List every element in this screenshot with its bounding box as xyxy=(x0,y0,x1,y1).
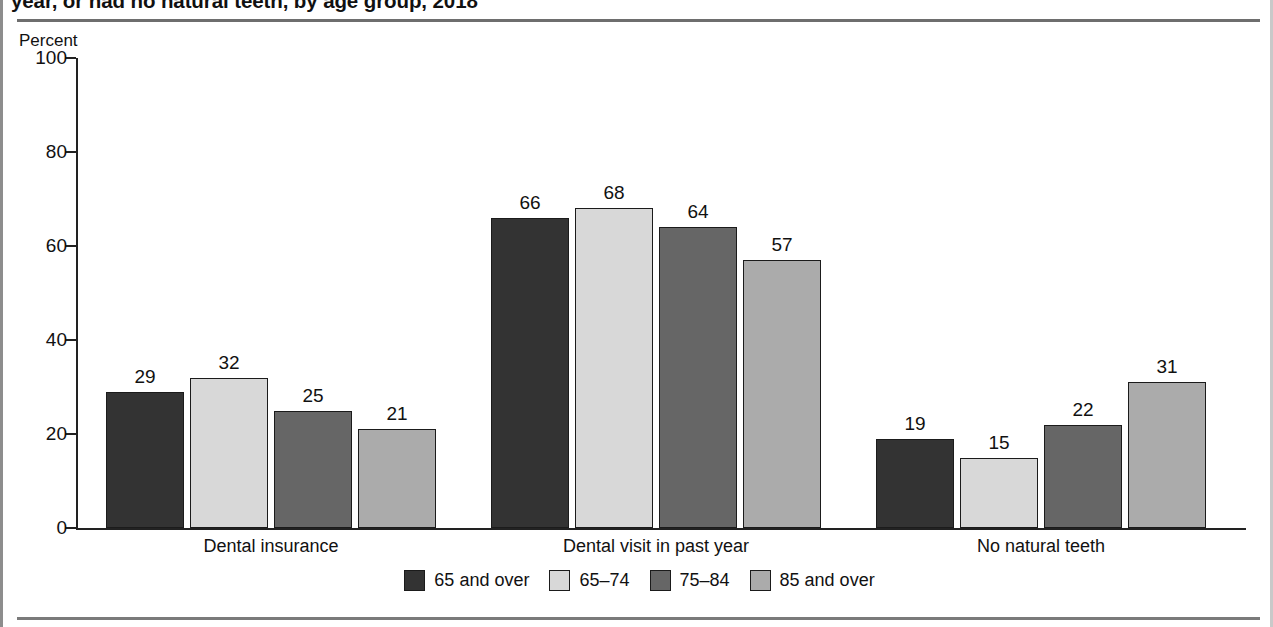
bar: 31 xyxy=(1128,382,1206,528)
y-tick-label: 60 xyxy=(46,235,67,257)
legend-swatch xyxy=(549,570,570,591)
legend-item: 85 and over xyxy=(750,570,875,591)
legend-label: 65 and over xyxy=(434,570,529,591)
x-axis-group-label: No natural teeth xyxy=(977,536,1105,557)
bar: 25 xyxy=(274,411,352,529)
legend-label: 65–74 xyxy=(579,570,629,591)
legend-label: 85 and over xyxy=(780,570,875,591)
bar: 68 xyxy=(575,208,653,528)
chart-legend: 65 and over65–7475–8485 and over xyxy=(3,570,1273,591)
bar: 32 xyxy=(190,378,268,528)
y-tick-label: 20 xyxy=(46,423,67,445)
y-tick-label: 80 xyxy=(46,141,67,163)
bar-value-label: 21 xyxy=(386,403,407,425)
bar: 21 xyxy=(358,429,436,528)
bar-value-label: 57 xyxy=(771,234,792,256)
legend-item: 65 and over xyxy=(404,570,529,591)
bar: 57 xyxy=(743,260,821,528)
bar: 15 xyxy=(960,458,1038,529)
plot-area: 020406080100 293225216668645719152231 De… xyxy=(76,58,1246,530)
bar-value-label: 31 xyxy=(1156,356,1177,378)
legend-swatch xyxy=(650,570,671,591)
bar-value-label: 19 xyxy=(904,413,925,435)
bar-value-label: 64 xyxy=(687,201,708,223)
bar-value-label: 25 xyxy=(302,385,323,407)
legend-item: 75–84 xyxy=(650,570,730,591)
y-tick-label: 40 xyxy=(46,329,67,351)
chart-title-strip: year, or had no natural teeth, by age gr… xyxy=(11,0,1251,16)
bar: 66 xyxy=(491,218,569,528)
legend-label: 75–84 xyxy=(680,570,730,591)
legend-swatch xyxy=(404,570,425,591)
bar: 29 xyxy=(106,392,184,528)
figure-panel: year, or had no natural teeth, by age gr… xyxy=(0,0,1273,627)
bar-value-label: 32 xyxy=(218,352,239,374)
bar-value-label: 22 xyxy=(1072,399,1093,421)
bottom-divider xyxy=(17,617,1260,620)
bar-value-label: 29 xyxy=(134,366,155,388)
bar-value-label: 15 xyxy=(988,432,1009,454)
bar: 64 xyxy=(659,227,737,528)
bar: 19 xyxy=(876,439,954,528)
page-title: year, or had no natural teeth, by age gr… xyxy=(11,0,1251,16)
x-axis-group-label: Dental visit in past year xyxy=(563,536,749,557)
y-axis-line xyxy=(76,58,78,530)
y-tick-label: 0 xyxy=(56,517,67,539)
x-axis-line xyxy=(76,528,1246,530)
x-axis-group-label: Dental insurance xyxy=(203,536,338,557)
legend-swatch xyxy=(750,570,771,591)
legend-item: 65–74 xyxy=(549,570,629,591)
title-divider xyxy=(17,19,1260,22)
bar-value-label: 68 xyxy=(603,182,624,204)
y-tick-label: 100 xyxy=(35,47,67,69)
bar: 22 xyxy=(1044,425,1122,528)
bar-value-label: 66 xyxy=(519,192,540,214)
